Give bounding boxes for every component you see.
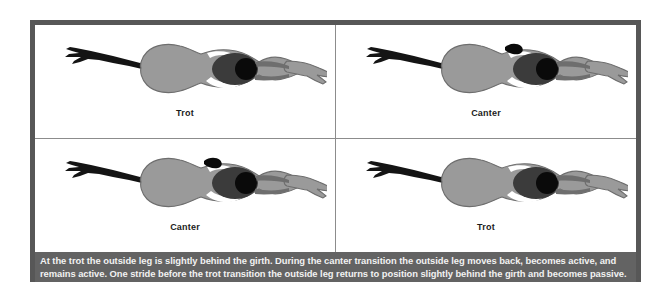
panel-bottom-left: Canter <box>35 139 335 252</box>
horse-neck-head-shape <box>585 61 628 84</box>
rider-outside-leg-icon <box>366 47 452 70</box>
panel-top-left: Trot <box>35 25 335 138</box>
panel-label-top-left: Trot <box>35 108 335 118</box>
panel-label-top-right: Canter <box>336 108 636 118</box>
horse-neck-head-shape <box>284 61 327 84</box>
panel-bottom-right: Trot <box>336 139 636 252</box>
rider-outside-leg-icon <box>65 161 151 184</box>
horse-rider-diagram-canter-1 <box>344 31 628 107</box>
panel-label-bottom-right: Trot <box>336 222 636 232</box>
horse-neck-head-shape <box>284 175 327 198</box>
rider-outside-leg-icon <box>65 47 151 70</box>
figure-root: Trot Canter <box>0 0 659 286</box>
caption-band: At the trot the outside leg is slightly … <box>35 252 636 282</box>
panel-label-bottom-left: Canter <box>35 222 335 232</box>
figure-caption-text: At the trot the outside leg is slightly … <box>40 255 632 280</box>
panel-top-right: Canter <box>336 25 636 138</box>
panel-grid: Trot Canter <box>35 25 636 252</box>
rider-head-shape <box>235 58 257 80</box>
rider-head-shape <box>536 172 558 194</box>
horse-rider-diagram-canter-2 <box>43 145 327 221</box>
rider-outside-leg-icon <box>366 161 452 184</box>
horse-rider-diagram-trot-2 <box>344 145 628 221</box>
horse-rider-diagram-trot-1 <box>43 31 327 107</box>
horse-neck-head-shape <box>585 175 628 198</box>
rider-head-shape <box>235 172 257 194</box>
rider-head-shape <box>536 58 558 80</box>
